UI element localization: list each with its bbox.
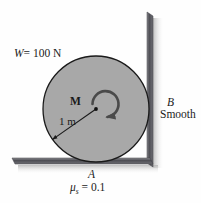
wall-shadow bbox=[153, 18, 164, 168]
point-b-label: B bbox=[167, 96, 174, 108]
weight-symbol: W bbox=[14, 47, 24, 59]
radius-label: 1 m bbox=[59, 116, 76, 128]
wall-condition-label: Smooth bbox=[160, 108, 196, 120]
friction-value: = 0.1 bbox=[82, 181, 106, 193]
moment-label: M bbox=[70, 95, 81, 107]
wall-surface-b bbox=[147, 12, 153, 167]
friction-coefficient-label: μs = 0.1 bbox=[70, 181, 105, 196]
friction-subscript: s bbox=[76, 187, 79, 196]
point-a-label: A bbox=[88, 168, 95, 180]
weight-value: = 100 N bbox=[24, 47, 62, 59]
weight-label: W= 100 N bbox=[14, 47, 61, 59]
center-point bbox=[94, 107, 98, 111]
statics-figure: W= 100 N M 1 m B Smooth A μs = 0.1 bbox=[0, 0, 201, 203]
